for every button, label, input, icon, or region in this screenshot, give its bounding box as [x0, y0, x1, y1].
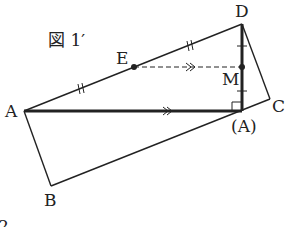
label-B: B	[44, 190, 57, 210]
point-M	[239, 64, 245, 70]
segment-DC	[242, 24, 270, 99]
partial-footer-text: 2	[0, 216, 9, 227]
point-E	[131, 64, 137, 70]
label-M: M	[222, 69, 239, 89]
label-D: D	[235, 1, 249, 21]
label-E: E	[116, 48, 128, 68]
label-C: C	[272, 96, 285, 116]
label-A: A	[4, 101, 18, 121]
segment-BA	[24, 111, 51, 186]
figure-title: 図 1′	[48, 30, 85, 50]
label-A-prime: (A)	[231, 116, 257, 136]
geometry-figure: 図 1′ A B C D E M (A) 2	[0, 0, 287, 227]
